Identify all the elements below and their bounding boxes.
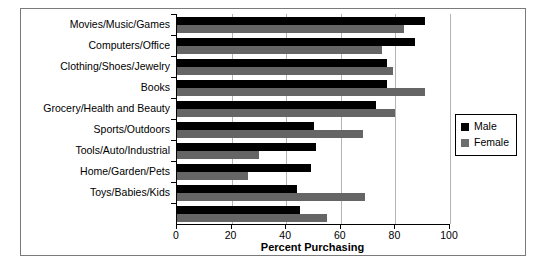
category-label: Home/Garden/Pets — [21, 161, 175, 182]
x-tick-label: 100 — [440, 229, 458, 241]
bar-group — [177, 14, 450, 35]
bar-group — [177, 98, 450, 119]
bar-male — [177, 185, 297, 193]
plot-wrapper: Movies/Music/GamesComputers/OfficeClothi… — [21, 9, 525, 255]
bar-group — [177, 77, 450, 98]
bar-group — [177, 203, 450, 224]
category-label: Grocery/Health and Beauty — [21, 98, 175, 119]
bar-male — [177, 59, 387, 67]
bar-male — [177, 122, 314, 130]
category-label: Sports/Outdoors — [21, 119, 175, 140]
category-label: Computers/Office — [21, 35, 175, 56]
bar-female — [177, 46, 382, 54]
bar-group — [177, 161, 450, 182]
bar-male — [177, 143, 316, 151]
x-tick-label: 40 — [279, 229, 291, 241]
legend-item-male: Male — [461, 119, 509, 135]
bar-female — [177, 25, 404, 33]
bar-female — [177, 88, 425, 96]
bar-female — [177, 130, 363, 138]
gridline — [450, 14, 451, 224]
x-axis-ticks: 020406080100 — [176, 224, 449, 229]
bar-male — [177, 38, 415, 46]
category-label: Clothing/Shoes/Jewelry — [21, 56, 175, 77]
bar-female — [177, 67, 393, 75]
legend-label: Female — [474, 135, 509, 151]
bar-female — [177, 214, 327, 222]
bars-layer — [177, 14, 450, 224]
bar-group — [177, 182, 450, 203]
bar-group — [177, 119, 450, 140]
bar-male — [177, 206, 300, 214]
bar-female — [177, 193, 365, 201]
bar-male — [177, 101, 376, 109]
x-tick-label: 0 — [173, 229, 179, 241]
chart-frame: Movies/Music/GamesComputers/OfficeClothi… — [20, 8, 526, 256]
x-tick-label: 80 — [389, 229, 401, 241]
chart-legend: MaleFemale — [455, 114, 517, 156]
bar-male — [177, 164, 311, 172]
bar-group — [177, 56, 450, 77]
legend-item-female: Female — [461, 135, 509, 151]
bar-group — [177, 35, 450, 56]
x-axis-title: Percent Purchasing — [176, 241, 449, 253]
x-tick-label: 60 — [334, 229, 346, 241]
category-label: Books — [21, 77, 175, 98]
bar-male — [177, 17, 425, 25]
bar-male — [177, 80, 387, 88]
bar-group — [177, 140, 450, 161]
category-label: Movies/Music/Games — [21, 14, 175, 35]
x-tick-label: 20 — [225, 229, 237, 241]
category-axis: Movies/Music/GamesComputers/OfficeClothi… — [21, 14, 175, 224]
bar-female — [177, 109, 395, 117]
bar-female — [177, 151, 259, 159]
category-label: Tools/Auto/Industrial — [21, 140, 175, 161]
bar-female — [177, 172, 248, 180]
plot-area — [176, 14, 450, 224]
legend-label: Male — [474, 119, 497, 135]
legend-swatch-male — [461, 123, 469, 131]
legend-swatch-female — [461, 139, 469, 147]
category-label: Toys/Babies/Kids — [21, 182, 175, 203]
